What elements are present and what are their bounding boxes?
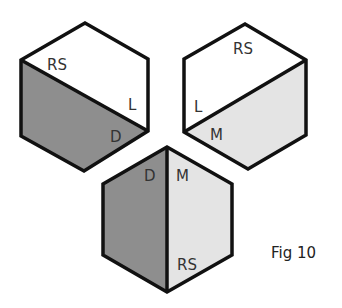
- cube3-label-d: D: [144, 167, 156, 185]
- figure-caption: Fig 10: [271, 244, 316, 262]
- cube-top-right: RS L M: [184, 24, 306, 169]
- cube3-dark-face: [103, 147, 167, 292]
- cube2-label-m: M: [210, 126, 223, 144]
- cube-top-left: RS L D: [21, 23, 148, 171]
- cube1-label-rs: RS: [47, 56, 67, 74]
- cube1-label-d: D: [110, 128, 122, 146]
- cube2-label-l: L: [194, 98, 203, 116]
- cube-bottom: D M RS: [103, 147, 232, 292]
- cube3-label-m: M: [176, 167, 189, 185]
- hexagon-diagram: RS L D RS L M D M RS Fig 10: [0, 0, 342, 308]
- cube3-label-rs: RS: [177, 256, 197, 274]
- cube1-label-l: L: [128, 96, 137, 114]
- cube2-label-rs: RS: [233, 40, 253, 58]
